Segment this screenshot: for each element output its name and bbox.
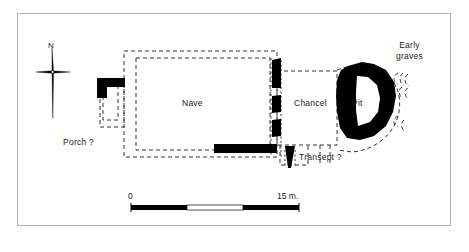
compass-cross-icon <box>36 48 70 118</box>
early-graves-line-1: Early <box>399 40 420 50</box>
scale-bar-start-label: 0 <box>128 191 133 201</box>
chancel-label: Chancel <box>294 98 327 108</box>
nave-south-wall <box>214 144 277 153</box>
compass-center-dot <box>51 71 54 74</box>
grave-outline-5 <box>399 87 403 98</box>
scale-bar <box>131 203 299 212</box>
chancel-arch-wall-north <box>272 58 281 88</box>
compass-vertical-needle <box>52 48 54 118</box>
transept-wall-stub <box>285 146 295 168</box>
scale-bar-segment-1 <box>131 205 187 210</box>
nave-label: Nave <box>182 98 203 108</box>
grave-outline-2 <box>400 73 404 85</box>
chancel-arch-wall-mid <box>272 95 281 113</box>
scale-bar-end-label: 15 m. <box>277 191 298 201</box>
early-graves-label: Earlygraves <box>396 40 423 61</box>
chancel-dashed-outline <box>277 71 337 145</box>
pit-label: Pit <box>352 98 363 108</box>
transept-label: Transept ? <box>299 152 342 162</box>
porch-wall-fragment <box>97 78 125 98</box>
early-graves-line-2: graves <box>396 51 423 61</box>
grave-outline-8 <box>402 120 406 131</box>
plan-drawing <box>0 0 469 252</box>
pit-masonry-ring <box>336 62 396 140</box>
archaeological-site-plan: N Porch ? Nave Chancel Pit Transept ? Ea… <box>0 0 469 252</box>
scale-bar-segment-3 <box>243 205 299 210</box>
scale-bar-segment-2 <box>187 205 243 210</box>
surviving-masonry-walls <box>97 58 396 168</box>
grave-outline-3 <box>405 74 409 86</box>
nave-inner-dashed-outline <box>136 58 270 150</box>
porch-label: Porch ? <box>63 137 94 147</box>
grave-outline-6 <box>405 88 409 99</box>
chancel-arch-wall-south <box>272 119 281 137</box>
compass-north-label: N <box>48 41 54 50</box>
